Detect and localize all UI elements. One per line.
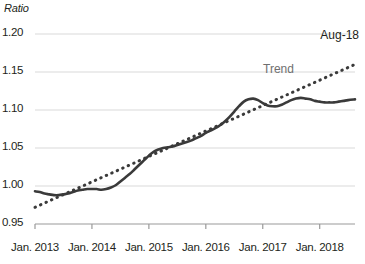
ratio-trend-line-chart: Ratio 0.951.001.051.101.151.20 Aug-18 Tr… — [0, 0, 365, 264]
x-tick-label: Jan. 2014 — [68, 241, 116, 253]
plot-area — [0, 0, 365, 264]
annotation-aug18: Aug-18 — [320, 28, 359, 42]
ratio-series-line — [35, 98, 355, 195]
x-tick-label: Jan. 2017 — [239, 241, 287, 253]
x-axis-ticks — [35, 224, 320, 229]
x-tick-label: Jan. 2015 — [125, 241, 173, 253]
x-tick-label: Jan. 2016 — [182, 241, 230, 253]
annotation-trend: Trend — [263, 62, 294, 76]
x-tick-label: Jan. 2013 — [11, 241, 59, 253]
x-tick-label: Jan. 2018 — [296, 241, 344, 253]
gridlines — [35, 34, 355, 186]
